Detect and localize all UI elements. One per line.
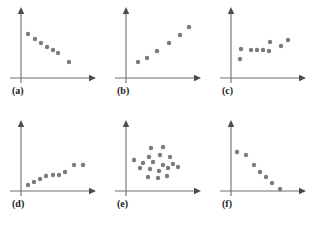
data-point (255, 48, 259, 52)
data-point (67, 60, 71, 64)
panel-label-b: (b) (117, 86, 129, 96)
panel-label-c: (c) (222, 86, 233, 96)
y-axis-arrow-icon (123, 7, 129, 14)
data-point (278, 187, 282, 191)
data-point (286, 38, 290, 42)
scatter-panel-e: (e) (105, 113, 210, 226)
data-point (270, 181, 274, 185)
data-point (72, 163, 76, 167)
data-point (235, 150, 239, 154)
x-axis-arrow-icon (299, 75, 306, 81)
data-point (151, 160, 155, 164)
scatter-panel-b: (b) (105, 0, 210, 113)
data-point (147, 155, 151, 159)
data-point (138, 166, 142, 170)
data-point (166, 166, 170, 170)
data-point (51, 173, 55, 177)
y-axis-arrow-icon (228, 120, 234, 127)
data-point (141, 161, 145, 165)
data-point (161, 145, 165, 149)
scatter-plot-f (210, 113, 315, 226)
panel-label-a: (a) (12, 86, 24, 96)
scatter-plot-b (105, 0, 210, 113)
data-point (81, 163, 85, 167)
data-point (167, 41, 171, 45)
data-point (157, 169, 161, 173)
data-point (249, 48, 253, 52)
panel-label-d: (d) (12, 199, 24, 209)
y-axis-arrow-icon (123, 120, 129, 127)
data-point (239, 47, 243, 51)
data-point (149, 146, 153, 150)
data-point (63, 170, 67, 174)
data-point (264, 175, 268, 179)
data-point (56, 51, 60, 55)
panel-label-e: (e) (117, 199, 128, 209)
x-axis-arrow-icon (299, 188, 306, 194)
data-point (168, 155, 172, 159)
x-axis-arrow-icon (89, 188, 96, 194)
data-point (165, 174, 169, 178)
data-point (39, 41, 43, 45)
data-point (136, 60, 140, 64)
data-point (171, 162, 175, 166)
scatter-panel-c: (c) (210, 0, 315, 113)
y-axis-arrow-icon (228, 7, 234, 14)
scatter-plot-e (105, 113, 210, 226)
y-axis-arrow-icon (18, 7, 24, 14)
scatter-panel-d: (d) (0, 113, 105, 226)
data-point (258, 170, 262, 174)
x-axis-arrow-icon (194, 188, 201, 194)
data-point (158, 153, 162, 157)
data-point (187, 25, 191, 29)
data-point (267, 49, 271, 53)
panel-label-f: (f) (222, 199, 232, 209)
x-axis-arrow-icon (194, 75, 201, 81)
data-point (279, 44, 283, 48)
data-point (238, 57, 242, 61)
scatter-plot-d (0, 113, 105, 226)
data-point (132, 158, 136, 162)
data-point (244, 153, 248, 157)
data-point (26, 32, 30, 36)
data-point (178, 33, 182, 37)
data-point (161, 163, 165, 167)
data-point (45, 45, 49, 49)
data-point (145, 56, 149, 60)
data-point (38, 177, 42, 181)
scatter-panel-a: (a) (0, 0, 105, 113)
data-point (176, 165, 180, 169)
data-point (156, 176, 160, 180)
data-point (33, 37, 37, 41)
data-point (261, 48, 265, 52)
data-point (148, 167, 152, 171)
data-point (51, 48, 55, 52)
data-point (26, 183, 30, 187)
scatter-panel-f: (f) (210, 113, 315, 226)
data-point (146, 175, 150, 179)
scatter-plot-a (0, 0, 105, 113)
data-point (252, 163, 256, 167)
data-point (32, 180, 36, 184)
x-axis-arrow-icon (89, 75, 96, 81)
scatterplot-figure: (a)(b)(c)(d)(e)(f) (0, 0, 317, 227)
data-point (155, 49, 159, 53)
scatter-plot-c (210, 0, 315, 113)
y-axis-arrow-icon (18, 120, 24, 127)
data-point (57, 173, 61, 177)
data-point (44, 174, 48, 178)
data-point (268, 40, 272, 44)
